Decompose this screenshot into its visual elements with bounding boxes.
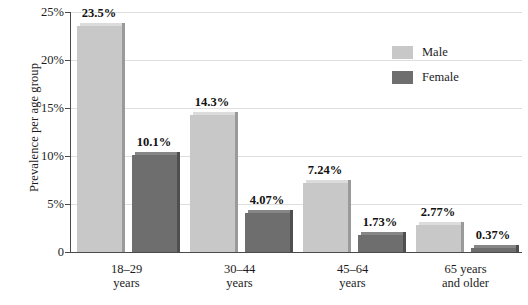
y-axis-line [70, 12, 71, 253]
bar-side-shading [516, 245, 519, 252]
bar-side-shading [235, 112, 238, 252]
bar-face [132, 155, 177, 252]
legend-item-female[interactable]: Female [392, 67, 502, 87]
bar-face [77, 26, 122, 252]
gridline [71, 108, 522, 109]
bar-male-group-1[interactable] [77, 26, 122, 252]
x-category-label-line: years [62, 276, 192, 290]
x-category-label-1: 18–29years [62, 262, 192, 290]
y-tick-label: 10% [18, 149, 64, 164]
bar-top-shading [306, 180, 348, 183]
bar-face [190, 115, 235, 252]
y-tick-mark [65, 156, 70, 157]
legend-label-female: Female [422, 70, 459, 85]
bar-male-group-3[interactable] [303, 183, 348, 253]
bar-value-label: 7.24% [288, 163, 362, 178]
x-category-label-line: 65 years [401, 262, 528, 276]
gridline [71, 12, 522, 13]
x-category-label-4: 65 yearsand older [401, 262, 528, 290]
bar-top-shading [419, 222, 461, 225]
bar-value-label: 2.77% [401, 205, 475, 220]
bar-value-label: 10.1% [117, 135, 191, 150]
y-tick-label: 15% [18, 101, 64, 116]
y-tick-label: 0 [18, 245, 64, 260]
bar-female-group-1[interactable] [132, 155, 177, 252]
bar-side-shading [403, 232, 406, 252]
bar-male-group-4[interactable] [416, 225, 461, 252]
y-tick-mark [65, 108, 70, 109]
bar-face [358, 235, 403, 252]
y-axis-tick-labels: 25%20%15%10%5%0 [16, 0, 64, 305]
bar-value-label: 23.5% [62, 6, 136, 21]
x-category-label-line: and older [401, 276, 528, 290]
bar-top-shading [193, 112, 235, 115]
x-category-label-line: years [288, 276, 418, 290]
bar-value-label: 4.07% [230, 193, 304, 208]
bar-face [245, 213, 290, 252]
bar-top-shading [361, 232, 403, 235]
x-category-label-line: 30–44 [175, 262, 305, 276]
bar-female-group-2[interactable] [245, 213, 290, 252]
bar-top-shading [80, 23, 122, 26]
x-category-label-3: 45–64years [288, 262, 418, 290]
x-axis-line [70, 252, 522, 253]
x-category-label-line: 45–64 [288, 262, 418, 276]
bar-value-label: 0.37% [456, 228, 528, 243]
legend-label-male: Male [422, 45, 448, 60]
bar-side-shading [290, 210, 293, 252]
bar-female-group-3[interactable] [358, 235, 403, 252]
bar-side-shading [177, 152, 180, 252]
x-category-label-2: 30–44years [175, 262, 305, 290]
legend: MaleFemale [392, 42, 502, 92]
cropped-title-sliver [0, 0, 528, 4]
bar-chart: Prevalence per age group 25%20%15%10%5%0… [0, 0, 528, 305]
y-tick-label: 25% [18, 5, 64, 20]
bar-top-shading [474, 245, 516, 248]
legend-item-male[interactable]: Male [392, 42, 502, 62]
bar-face [303, 183, 348, 253]
legend-swatch-female [392, 71, 413, 84]
y-tick-label: 20% [18, 53, 64, 68]
bar-top-shading [135, 152, 177, 155]
y-tick-label: 5% [18, 197, 64, 212]
bar-top-shading [248, 210, 290, 213]
y-tick-mark [65, 252, 70, 253]
x-category-label-line: years [175, 276, 305, 290]
legend-swatch-male [392, 46, 413, 59]
x-category-label-line: 18–29 [62, 262, 192, 276]
y-tick-mark [65, 60, 70, 61]
y-tick-mark [65, 204, 70, 205]
bar-female-group-4[interactable] [471, 248, 516, 252]
bar-male-group-2[interactable] [190, 115, 235, 252]
bar-face [471, 248, 516, 252]
bar-value-label: 14.3% [175, 95, 249, 110]
bar-face [416, 225, 461, 252]
